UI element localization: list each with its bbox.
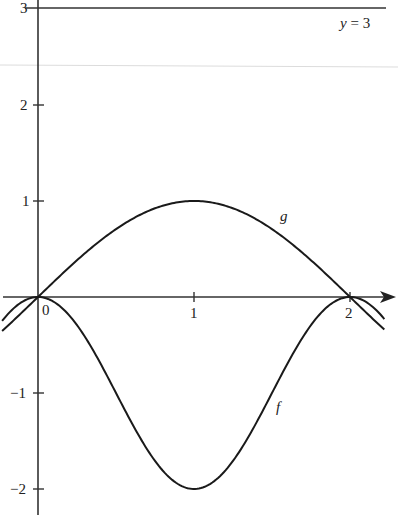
x-tick-label-1: 1 [190, 305, 198, 321]
y-var: y [338, 15, 347, 31]
x-tick-label-2: 2 [345, 305, 353, 321]
y-tick-label-2: 2 [20, 97, 28, 113]
y-tick-label-neg1: −1 [10, 385, 26, 401]
y-tick-label-3: 3 [20, 0, 28, 16]
y-tick-label-neg2: −2 [10, 481, 26, 497]
function-graph: 3 2 1 −1 −2 0 1 2 g f y = 3 [0, 0, 398, 521]
origin-label: 0 [42, 302, 50, 318]
curve-f [2, 297, 384, 489]
g-label: g [280, 208, 288, 224]
y-equals-3-label: y = 3 [338, 15, 370, 31]
y-equals-3-rest: = 3 [347, 15, 370, 31]
f-label: f [276, 399, 282, 415]
scan-artifact-line [0, 65, 398, 67]
y-tick-label-1: 1 [22, 193, 30, 209]
